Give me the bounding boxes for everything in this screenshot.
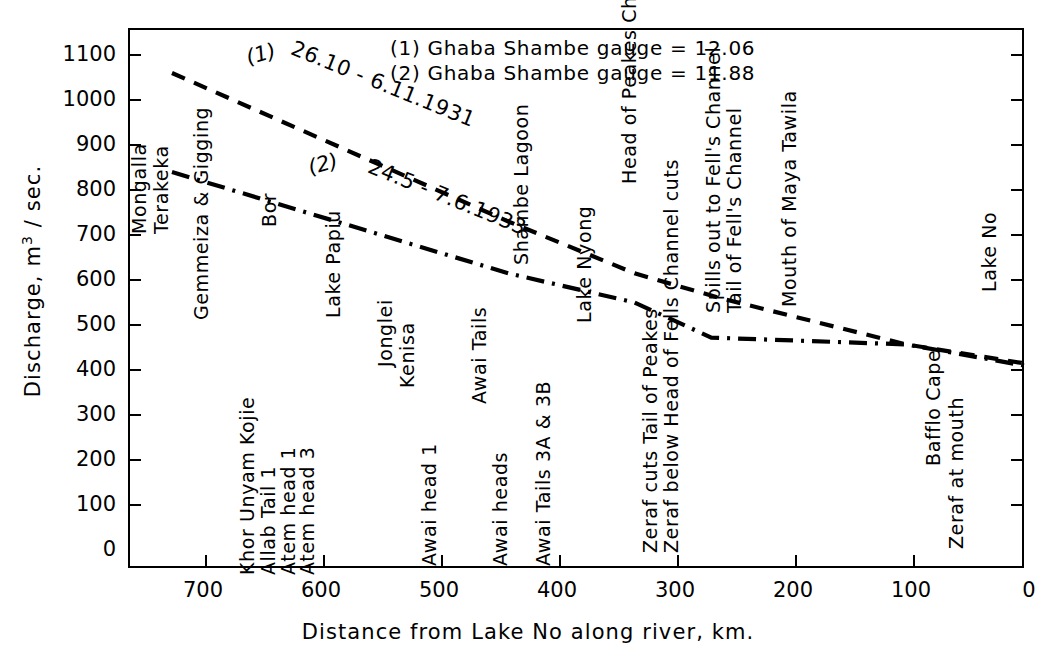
station-label-atem-head-3: Atem head 3 (296, 446, 318, 575)
y-axis-tick-right-600 (1011, 279, 1022, 281)
station-label-terakeka: Terakeka (150, 145, 172, 234)
x-axis-tick-400 (559, 555, 561, 566)
discharge-profile-chart: Discharge, m3 / sec. 1100 1000 900 800 7… (0, 0, 1056, 658)
station-label-awai-tails: Awai Tails (468, 307, 490, 404)
station-label-bafflo-cape: Bafflo Cape (922, 350, 944, 466)
x-axis-tick-200 (795, 555, 797, 566)
station-label-lake-no: Lake No (978, 212, 1000, 292)
station-label-zeraf-at-mouth: Zeraf at mouth (945, 397, 967, 549)
station-label-zeraf-below-head-of-fells: Zeraf below Head of Fells Channel cuts (660, 159, 682, 553)
station-label-gemmeiza-gigging: Gemmeiza & Gigging (190, 107, 212, 320)
y-axis-tick-right-500 (1011, 324, 1022, 326)
station-label-shambe-lagoon: Shambe Lagoon (510, 104, 532, 265)
y-axis-tick-right-900 (1011, 144, 1022, 146)
y-tick-label-900: 900 (6, 132, 116, 156)
station-label-mongalla: Mongalla (128, 143, 150, 234)
y-axis-tick-right-700 (1011, 234, 1022, 236)
x-axis-tick-600 (323, 555, 325, 566)
station-label-mouth-of-maya-tawila: Mouth of Maya Tawila (778, 90, 800, 307)
x-axis-title: Distance from Lake No along river, km. (0, 620, 1056, 644)
x-axis-tick-500 (441, 555, 443, 566)
station-label-bor: Bor (258, 193, 280, 227)
station-label-awai-head-1: Awai head 1 (418, 443, 440, 566)
station-label-tail-of-fells-channel: Tail of Fell's Channel (723, 107, 745, 313)
x-tick-label-200: 200 (748, 578, 838, 602)
station-label-awai-tails-3a-3b: Awai Tails 3A & 3B (532, 381, 554, 566)
x-axis-tick-700 (205, 555, 207, 566)
y-axis-tick-right-300 (1011, 414, 1022, 416)
y-axis-tick-1100 (130, 54, 141, 56)
y-axis-tick-500 (130, 324, 141, 326)
x-tick-label-100: 100 (866, 578, 956, 602)
y-tick-label-100: 100 (6, 492, 116, 516)
station-label-jonglei: Jonglei (374, 299, 396, 367)
y-tick-label-200: 200 (6, 447, 116, 471)
station-label-lake-papiu: Lake Papiu (322, 210, 344, 318)
y-axis-tick-300 (130, 414, 141, 416)
y-axis-tick-right-400 (1011, 369, 1022, 371)
y-axis-tick-100 (130, 504, 141, 506)
x-axis-tick-300 (677, 555, 679, 566)
station-label-zeraf-cuts-tail-of-peakes: Zeraf cuts Tail of Peakes (639, 308, 661, 553)
y-tick-label-1000: 1000 (6, 87, 116, 111)
station-label-khor-unyam-kojie: Khor Unyam Kojie (236, 397, 258, 575)
x-tick-label-400: 400 (512, 578, 602, 602)
x-tick-label-600: 600 (276, 578, 366, 602)
station-label-kenisa: Kenisa (396, 322, 418, 388)
legend-item-1: (1) Ghaba Shambe gauge = 12.06 (390, 36, 755, 61)
y-axis-tick-right-100 (1011, 504, 1022, 506)
y-tick-label-300: 300 (6, 402, 116, 426)
y-axis-tick-right-1100 (1011, 54, 1022, 56)
x-axis-tick-100 (913, 555, 915, 566)
y-axis-tick-right-200 (1011, 459, 1022, 461)
y-tick-label-600: 600 (6, 267, 116, 291)
y-axis-tick-right-1000 (1011, 99, 1022, 101)
y-tick-label-1100: 1100 (6, 42, 116, 66)
y-tick-label-700: 700 (6, 222, 116, 246)
station-label-allab-tail-1: Allab Tail 1 (257, 466, 279, 575)
y-axis-tick-1000 (130, 99, 141, 101)
legend: (1) Ghaba Shambe gauge = 12.06 (2) Ghaba… (390, 36, 755, 86)
y-axis-tick-right-800 (1011, 189, 1022, 191)
x-tick-label-300: 300 (630, 578, 720, 602)
station-label-spills-out-to-fells-channel: Spills out to Fell's Channel (702, 47, 724, 313)
x-tick-label-700: 700 (158, 578, 248, 602)
x-tick-label-500: 500 (394, 578, 484, 602)
y-tick-label-0: 0 (6, 537, 116, 561)
station-label-head-of-peakes-channel: Head of Peakes Channel (618, 0, 640, 184)
y-axis-tick-400 (130, 369, 141, 371)
y-tick-label-400: 400 (6, 357, 116, 381)
y-tick-label-800: 800 (6, 177, 116, 201)
station-label-awai-heads: Awai heads (489, 452, 511, 566)
y-tick-label-500: 500 (6, 312, 116, 336)
legend-item-2: (2) Ghaba Shambe gauge = 11.88 (390, 61, 755, 86)
station-label-lake-nyong: Lake Nyong (573, 206, 595, 323)
y-axis-tick-600 (130, 279, 141, 281)
x-tick-label-0: 0 (984, 578, 1056, 602)
y-axis-tick-200 (130, 459, 141, 461)
y-axis-tick-700 (130, 234, 141, 236)
